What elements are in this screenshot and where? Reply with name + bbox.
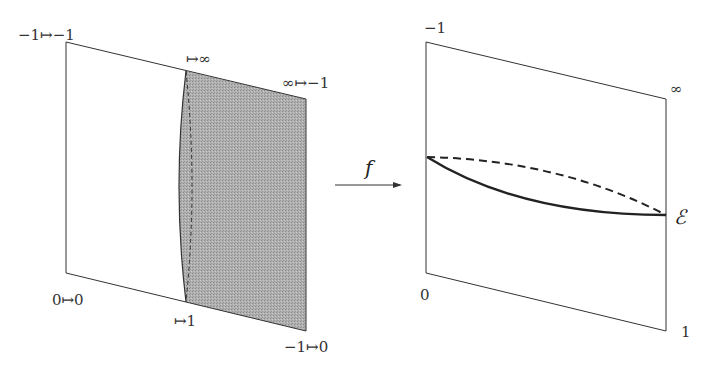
label-top-mid: ↦∞ [186, 50, 211, 68]
label-top-left: −1↦−1 [18, 26, 75, 44]
label-bottom-left: 0↦0 [52, 291, 84, 309]
shaded-region [179, 71, 306, 331]
label-one: 1 [681, 323, 691, 341]
label-top-right: ∞↦−1 [282, 74, 329, 92]
label-infinity: ∞ [670, 80, 683, 98]
label-bottom-mid: ↦1 [174, 312, 196, 330]
solid-image-curve [427, 157, 666, 215]
dashed-image-curve [427, 157, 666, 215]
label-zero: 0 [420, 286, 430, 304]
label-bottom-right: −1↦0 [284, 338, 328, 356]
left-parallelogram [66, 42, 306, 331]
map-label-f: f [363, 156, 376, 180]
label-curve-endpoint: ℰ [674, 205, 688, 229]
right-parallelogram [426, 42, 666, 331]
diagram-canvas: −1↦−1 ↦∞ ∞↦−1 0↦0 ↦1 −1↦0 f −1 ∞ 0 1 ℰ [0, 0, 714, 367]
map-arrow [335, 182, 402, 188]
label-minus-one: −1 [424, 19, 446, 37]
